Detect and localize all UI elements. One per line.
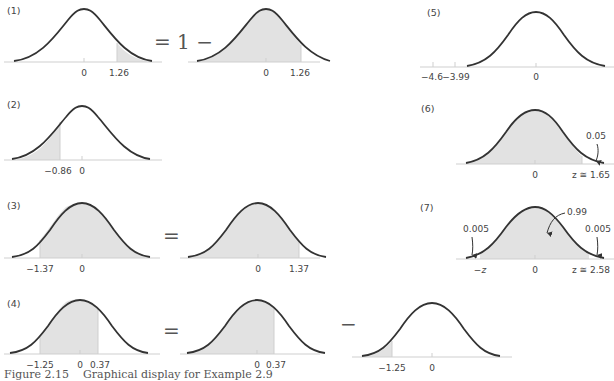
tick-label: 0 [429, 363, 435, 373]
panel-3: (3) −1.37 0 = 0 1.37 [4, 200, 326, 274]
tick-label: 1.26 [109, 68, 129, 78]
tick-label: −1.25 [378, 363, 406, 373]
panel-7: (7) 0.005 0.99 0.005 −z 0 z ≅ 2.58 [420, 202, 614, 275]
panel-4: (4) −1.25 0 0.37 = 0 0.37 − [4, 298, 512, 373]
panel-label: (7) [420, 202, 433, 213]
bell-curve: −0.86 0 [4, 106, 162, 176]
tail-area-annotation: 0.05 [586, 131, 606, 141]
tail-area-annotation-right: 0.005 [585, 224, 611, 234]
bell-curve: 0 1.26 [4, 9, 162, 78]
tick-label: 0 [79, 264, 85, 274]
tick-label: −4.6 [421, 72, 443, 82]
panel-label: (6) [421, 103, 434, 114]
panel-1: (1) 0 1.26 = 1 − 0 1.26 [4, 5, 330, 78]
tick-label: −z [474, 265, 487, 275]
panel-5: (5) −4.6 −3.99 0 [420, 7, 614, 82]
bell-curve: −1.25 0 [352, 303, 512, 373]
bell-curve: −1.25 0 0.37 [4, 300, 160, 370]
tick-label: −1.37 [26, 264, 54, 274]
operator-equals: = [163, 224, 180, 248]
bell-curve: 0 0.37 [180, 300, 325, 370]
bell-curve: −4.6 −3.99 0 [420, 12, 614, 82]
normal-distribution-figure: (1) 0 1.26 = 1 − 0 1.26 (2) [0, 0, 614, 381]
panel-label: (4) [7, 298, 20, 309]
caption-text: Graphical display for Example 2.9 [83, 368, 273, 381]
panel-label: (3) [7, 200, 20, 211]
tick-label: −3.99 [442, 72, 470, 82]
operator-minus: − [340, 312, 357, 336]
bell-curve: 0.05 0 z ≅ 1.65 [456, 110, 614, 180]
tail-area-annotation-left: 0.005 [463, 224, 489, 234]
bell-curve: 0.005 0.99 0.005 −z 0 z ≅ 2.58 [456, 207, 614, 275]
bell-curve: 0 1.37 [180, 203, 326, 274]
center-area-annotation: 0.99 [567, 207, 587, 217]
tick-label: 0 [255, 264, 261, 274]
operator-equals: = [163, 319, 180, 343]
panel-2: (2) −0.86 0 [4, 99, 162, 176]
tick-label: 0 [532, 265, 538, 275]
tick-label: z ≅ 2.58 [572, 265, 610, 275]
panel-label: (1) [7, 5, 20, 16]
figure-caption: Figure 2.15Graphical display for Example… [4, 368, 273, 381]
caption-number: Figure 2.15 [4, 368, 69, 381]
tick-label: 0 [533, 72, 539, 82]
panel-6: (6) 0.05 0 z ≅ 1.65 [421, 103, 614, 180]
tick-label: 0 [263, 68, 269, 78]
tick-label: 1.26 [290, 68, 310, 78]
operator-equals-one-minus: = 1 − [154, 30, 213, 54]
tick-label: 1.37 [289, 264, 309, 274]
bell-curve: −1.37 0 [4, 203, 160, 274]
tick-label: z ≅ 1.65 [572, 170, 610, 180]
panel-label: (2) [7, 99, 20, 110]
tick-label: 0 [79, 166, 85, 176]
tick-label: −0.86 [44, 166, 72, 176]
tick-label: 0 [532, 170, 538, 180]
tick-label: 0 [81, 68, 87, 78]
panel-label: (5) [427, 7, 440, 18]
